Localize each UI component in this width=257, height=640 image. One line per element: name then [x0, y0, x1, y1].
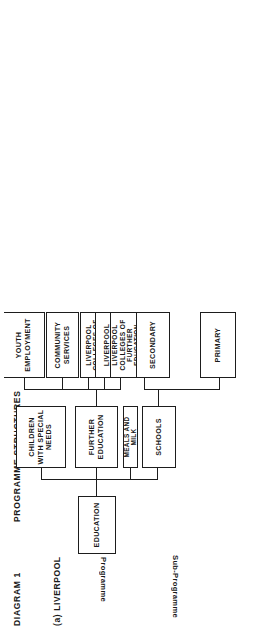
diagram-label: DIAGRAM 1	[12, 572, 22, 626]
connector-schools-spine	[144, 389, 220, 390]
connector-stub-schools	[157, 468, 158, 480]
node-community-services: COMMUNITY SERVICES	[46, 312, 79, 378]
node-primary-label: PRIMARY	[214, 328, 223, 363]
connector-stub-further-education	[96, 468, 97, 480]
connector-stub-primary	[219, 378, 220, 390]
connector-stub-secondary	[144, 378, 145, 390]
scan-edge-clip	[0, 0, 4, 640]
connector-stub-lcfe	[120, 378, 121, 390]
connector-stub-polytechnic	[104, 378, 105, 390]
connector-stub-meals-and-milk	[130, 468, 131, 480]
connector-schools-out	[158, 390, 159, 406]
connector-stub-youth-employment	[24, 378, 25, 390]
node-meals-and-milk-label: MEALS AND MILK	[124, 407, 137, 467]
section-label: (a) LIVERPOOL	[52, 556, 62, 626]
connector-fe-out	[96, 390, 97, 406]
node-education: EDUCATION	[78, 496, 116, 554]
node-children-special-needs: CHILDREN WITH SPECIAL NEEDS	[16, 406, 66, 468]
connector-level2-spine	[41, 479, 158, 480]
connector-stub-lce	[88, 378, 89, 390]
node-schools: SCHOOLS	[142, 406, 176, 468]
connector-stub-children-special-needs	[41, 468, 42, 480]
row-label-sub-programme: Sub-Programme	[171, 555, 180, 618]
scanned-diagram-page: DIAGRAM 1 PROGRAMME STRUCTURES (a) LIVER…	[0, 0, 257, 640]
node-meals-and-milk: MEALS AND MILK	[123, 406, 138, 468]
connector-education-out	[96, 480, 97, 496]
node-schools-label: SCHOOLS	[155, 418, 164, 456]
node-further-education: FURTHER EDUCATION	[75, 406, 118, 468]
node-primary: PRIMARY	[200, 312, 236, 378]
row-label-programme: Programme	[99, 557, 108, 602]
node-secondary: SECONDARY	[136, 312, 170, 378]
connector-stub-community-services	[62, 378, 63, 390]
node-secondary-label: SECONDARY	[149, 321, 158, 369]
node-children-special-needs-label: CHILDREN WITH SPECIAL NEEDS	[28, 407, 54, 467]
connector-fe-spine	[24, 389, 120, 390]
node-youth-employment: YOUTH EMPLOYMENT	[3, 312, 45, 378]
node-further-education-label: FURTHER EDUCATION	[88, 407, 105, 467]
node-community-services-label: COMMUNITY SERVICES	[54, 313, 71, 377]
node-education-label: EDUCATION	[93, 503, 102, 548]
node-youth-employment-label: YOUTH EMPLOYMENT	[15, 313, 32, 377]
